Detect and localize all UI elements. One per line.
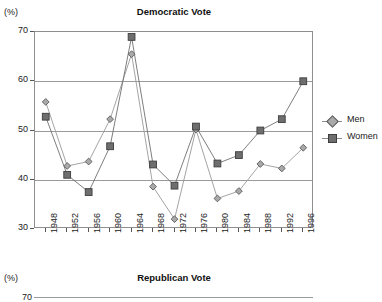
data-point-men-1972: [171, 216, 178, 223]
diamond-marker-icon: [326, 115, 339, 128]
y-axis-tick-label: 50: [6, 124, 28, 134]
data-point-women-1984: [235, 152, 242, 159]
data-series-layer: [35, 32, 314, 229]
x-axis-tick-mark: [66, 228, 67, 232]
plot-area: [34, 31, 313, 228]
data-point-women-1976: [193, 123, 200, 130]
y-axis-unit-label: (%): [4, 7, 18, 17]
legend-label-men: Men: [347, 114, 365, 124]
x-axis-tick-mark: [45, 228, 46, 232]
x-axis-tick-label: 1984: [242, 213, 252, 233]
chart-title: Republican Vote: [34, 272, 314, 283]
data-point-men-1980: [214, 195, 221, 202]
data-point-women-1988: [257, 127, 264, 134]
y-axis-tick-label: 60: [6, 74, 28, 84]
y-axis-tick-label: 40: [6, 173, 28, 183]
data-point-men-1948: [42, 99, 49, 106]
data-point-women-1960: [107, 143, 114, 150]
x-axis-tick-label: 1976: [199, 213, 209, 233]
y-axis-unit-label: (%): [4, 273, 18, 283]
x-axis-tick-mark: [152, 228, 153, 232]
x-axis-tick-label: 1972: [178, 213, 188, 233]
y-axis-tick-label: 70: [10, 292, 32, 302]
x-axis-tick-mark: [259, 228, 260, 232]
x-axis-tick-label: 1988: [263, 213, 273, 233]
x-axis-tick-mark: [131, 228, 132, 232]
y-axis-tick-label: 70: [6, 25, 28, 35]
data-point-women-1972: [171, 182, 178, 189]
x-axis-tick-label: 1948: [49, 213, 59, 233]
data-point-men-1960: [107, 116, 114, 123]
square-marker-icon: [328, 134, 337, 143]
data-point-women-1956: [85, 189, 92, 196]
x-axis-tick-label: 1952: [70, 213, 80, 233]
x-axis-tick-mark: [238, 228, 239, 232]
y-axis-tick-mark: [30, 179, 34, 180]
x-axis-tick-label: 1996: [306, 213, 316, 233]
data-point-women-1968: [150, 161, 157, 168]
data-point-women-1996: [300, 78, 307, 85]
data-point-men-1968: [150, 183, 157, 190]
data-point-women-1948: [42, 113, 49, 120]
y-axis-tick-mark: [30, 80, 34, 81]
x-axis-tick-label: 1992: [285, 213, 295, 233]
x-axis-tick-mark: [302, 228, 303, 232]
x-axis-tick-mark: [216, 228, 217, 232]
y-axis-tick-mark: [30, 31, 34, 32]
y-axis-tick-label: 30: [6, 222, 28, 232]
y-axis-tick-mark: [30, 228, 34, 229]
x-axis-tick-label: 1980: [220, 213, 230, 233]
data-point-women-1980: [214, 160, 221, 167]
x-axis-tick-mark: [281, 228, 282, 232]
x-axis-tick-label: 1960: [113, 213, 123, 233]
x-axis-tick-mark: [88, 228, 89, 232]
series-line-men: [46, 54, 304, 219]
chart-title: Democratic Vote: [34, 6, 314, 17]
x-axis-tick-label: 1956: [92, 213, 102, 233]
data-point-women-1952: [64, 171, 71, 178]
legend-label-women: Women: [347, 131, 378, 141]
plot-top-border: [34, 297, 313, 298]
x-axis-tick-mark: [109, 228, 110, 232]
x-axis-tick-mark: [174, 228, 175, 232]
x-axis-tick-label: 1964: [135, 213, 145, 233]
y-axis-tick-mark: [30, 130, 34, 131]
x-axis-tick-label: 1968: [156, 213, 166, 233]
series-line-women: [46, 37, 304, 192]
x-axis-tick-mark: [195, 228, 196, 232]
data-point-women-1964: [128, 34, 135, 41]
data-point-men-1956: [85, 158, 92, 165]
data-point-women-1992: [278, 116, 285, 123]
